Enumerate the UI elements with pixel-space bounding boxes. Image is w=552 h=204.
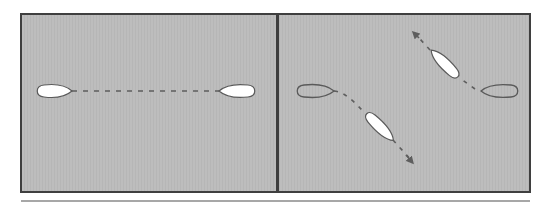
- foil-diagram: [0, 0, 552, 204]
- right-panel: [278, 14, 530, 192]
- right-panel-frame: [278, 14, 530, 192]
- diagram-canvas: [0, 0, 552, 204]
- left-panel: [21, 14, 277, 192]
- left-panel-frame: [21, 14, 277, 192]
